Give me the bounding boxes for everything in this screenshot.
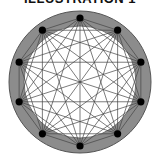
graph-node bbox=[114, 130, 121, 137]
graph-node bbox=[39, 130, 46, 137]
graph-node bbox=[16, 59, 23, 66]
graph-node bbox=[39, 27, 46, 34]
graph-node bbox=[137, 98, 144, 105]
graph-node bbox=[76, 142, 83, 149]
graph-node bbox=[16, 98, 23, 105]
graph-node bbox=[137, 59, 144, 66]
graph-node bbox=[114, 27, 121, 34]
graph-node bbox=[76, 14, 83, 21]
complete-graph-diagram bbox=[0, 0, 155, 159]
